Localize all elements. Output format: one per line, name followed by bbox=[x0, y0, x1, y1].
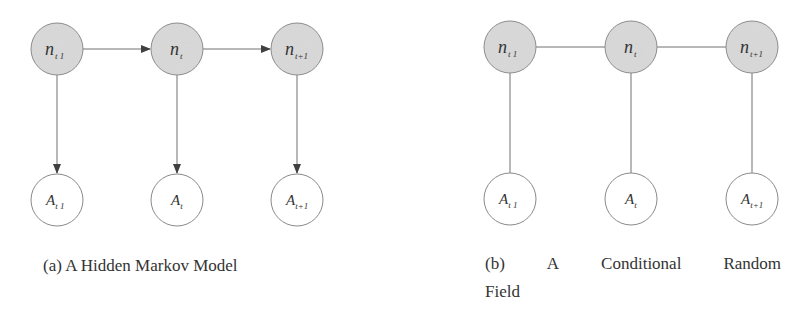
caption-word: (b) bbox=[485, 250, 505, 278]
hmm-hidden-node: nt+1 bbox=[271, 23, 323, 75]
crf-hidden-node: nt 1 bbox=[484, 21, 536, 73]
hmm-observed-node: At+1 bbox=[271, 174, 323, 226]
hmm-hidden-node: nt bbox=[151, 23, 203, 75]
crf-observed-node: At+1 bbox=[726, 173, 778, 225]
caption-word: Random bbox=[723, 250, 781, 278]
crf-observed-node: At 1 bbox=[484, 173, 536, 225]
crf-hidden-node: nt+1 bbox=[726, 21, 778, 73]
crf-observed-node: At bbox=[605, 173, 657, 225]
caption-crf-line1: (b) A Conditional Random bbox=[485, 250, 781, 278]
hmm-hidden-node: nt 1 bbox=[31, 23, 83, 75]
caption-crf: (b) A Conditional Random Field bbox=[485, 250, 781, 306]
caption-hmm: (a) A Hidden Markov Model bbox=[43, 252, 238, 280]
hmm-diagram: nt 1 nt nt+1 At 1 At At+1 bbox=[31, 23, 323, 226]
crf-diagram: nt 1 nt nt+1 At 1 At At+1 bbox=[484, 21, 778, 225]
caption-word: Conditional bbox=[601, 250, 681, 278]
hmm-observed-node: At bbox=[151, 174, 203, 226]
crf-hidden-node: nt bbox=[605, 21, 657, 73]
caption-crf-line2: Field bbox=[485, 278, 781, 306]
hmm-observed-node: At 1 bbox=[31, 174, 83, 226]
caption-word: A bbox=[547, 250, 559, 278]
